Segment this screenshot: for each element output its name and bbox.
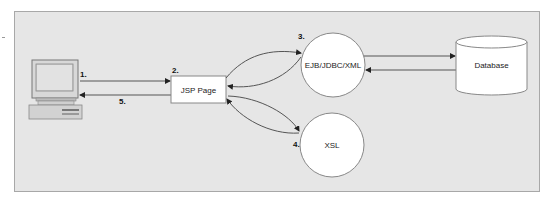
database-label: Database [474,61,509,70]
arrow-jsp-to-xsl [228,96,299,131]
diagram-svg: 1. 5. JSP Page 2. EJB/JDBC/XML 3. XSL 4. [0,0,556,203]
step-2-label: 2. [172,66,179,75]
arrow-ejb-to-jsp [228,57,301,87]
ejb-jdbc-xml-node: EJB/JDBC/XML [301,33,365,97]
jsp-page-node: JSP Page [171,76,226,103]
diagram-canvas: 1. 5. JSP Page 2. EJB/JDBC/XML 3. XSL 4. [0,0,556,203]
step-1-label: 1. [80,70,87,79]
step-3-label: 3. [298,32,305,41]
xsl-node: XSL [300,113,364,177]
database-node: Database [456,36,527,95]
jsp-page-label: JSP Page [181,86,217,95]
step-4-label: 4. [293,140,300,149]
xsl-label: XSL [324,141,340,150]
arrow-jsp-to-ejb [226,51,301,78]
step-5-label: 5. [119,97,126,106]
computer-icon [29,60,82,119]
ejb-jdbc-xml-label: EJB/JDBC/XML [305,61,362,70]
